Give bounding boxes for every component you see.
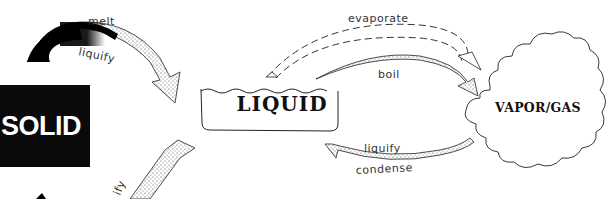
liquid-label: LIQUID bbox=[222, 92, 342, 116]
liquify-bottom-label: liquify bbox=[364, 142, 401, 155]
evaporate-label: evaporate bbox=[348, 12, 409, 25]
melt-label: melt bbox=[88, 15, 115, 28]
evaporate-arrow bbox=[266, 24, 481, 78]
freeze-arrow bbox=[130, 140, 195, 199]
vapor-gas-label: VAPOR/GAS bbox=[488, 100, 588, 115]
liquify-top-label: liquify bbox=[77, 45, 116, 65]
phase-diagram: melt liquify ify evaporate boil bbox=[0, 0, 614, 199]
arrow-tip-fragment bbox=[36, 193, 46, 199]
ify-partial-label: ify bbox=[111, 179, 129, 198]
solid-label: SOLID bbox=[0, 85, 82, 167]
boil-label: boil bbox=[378, 68, 400, 81]
condense-label: condense bbox=[355, 161, 413, 177]
